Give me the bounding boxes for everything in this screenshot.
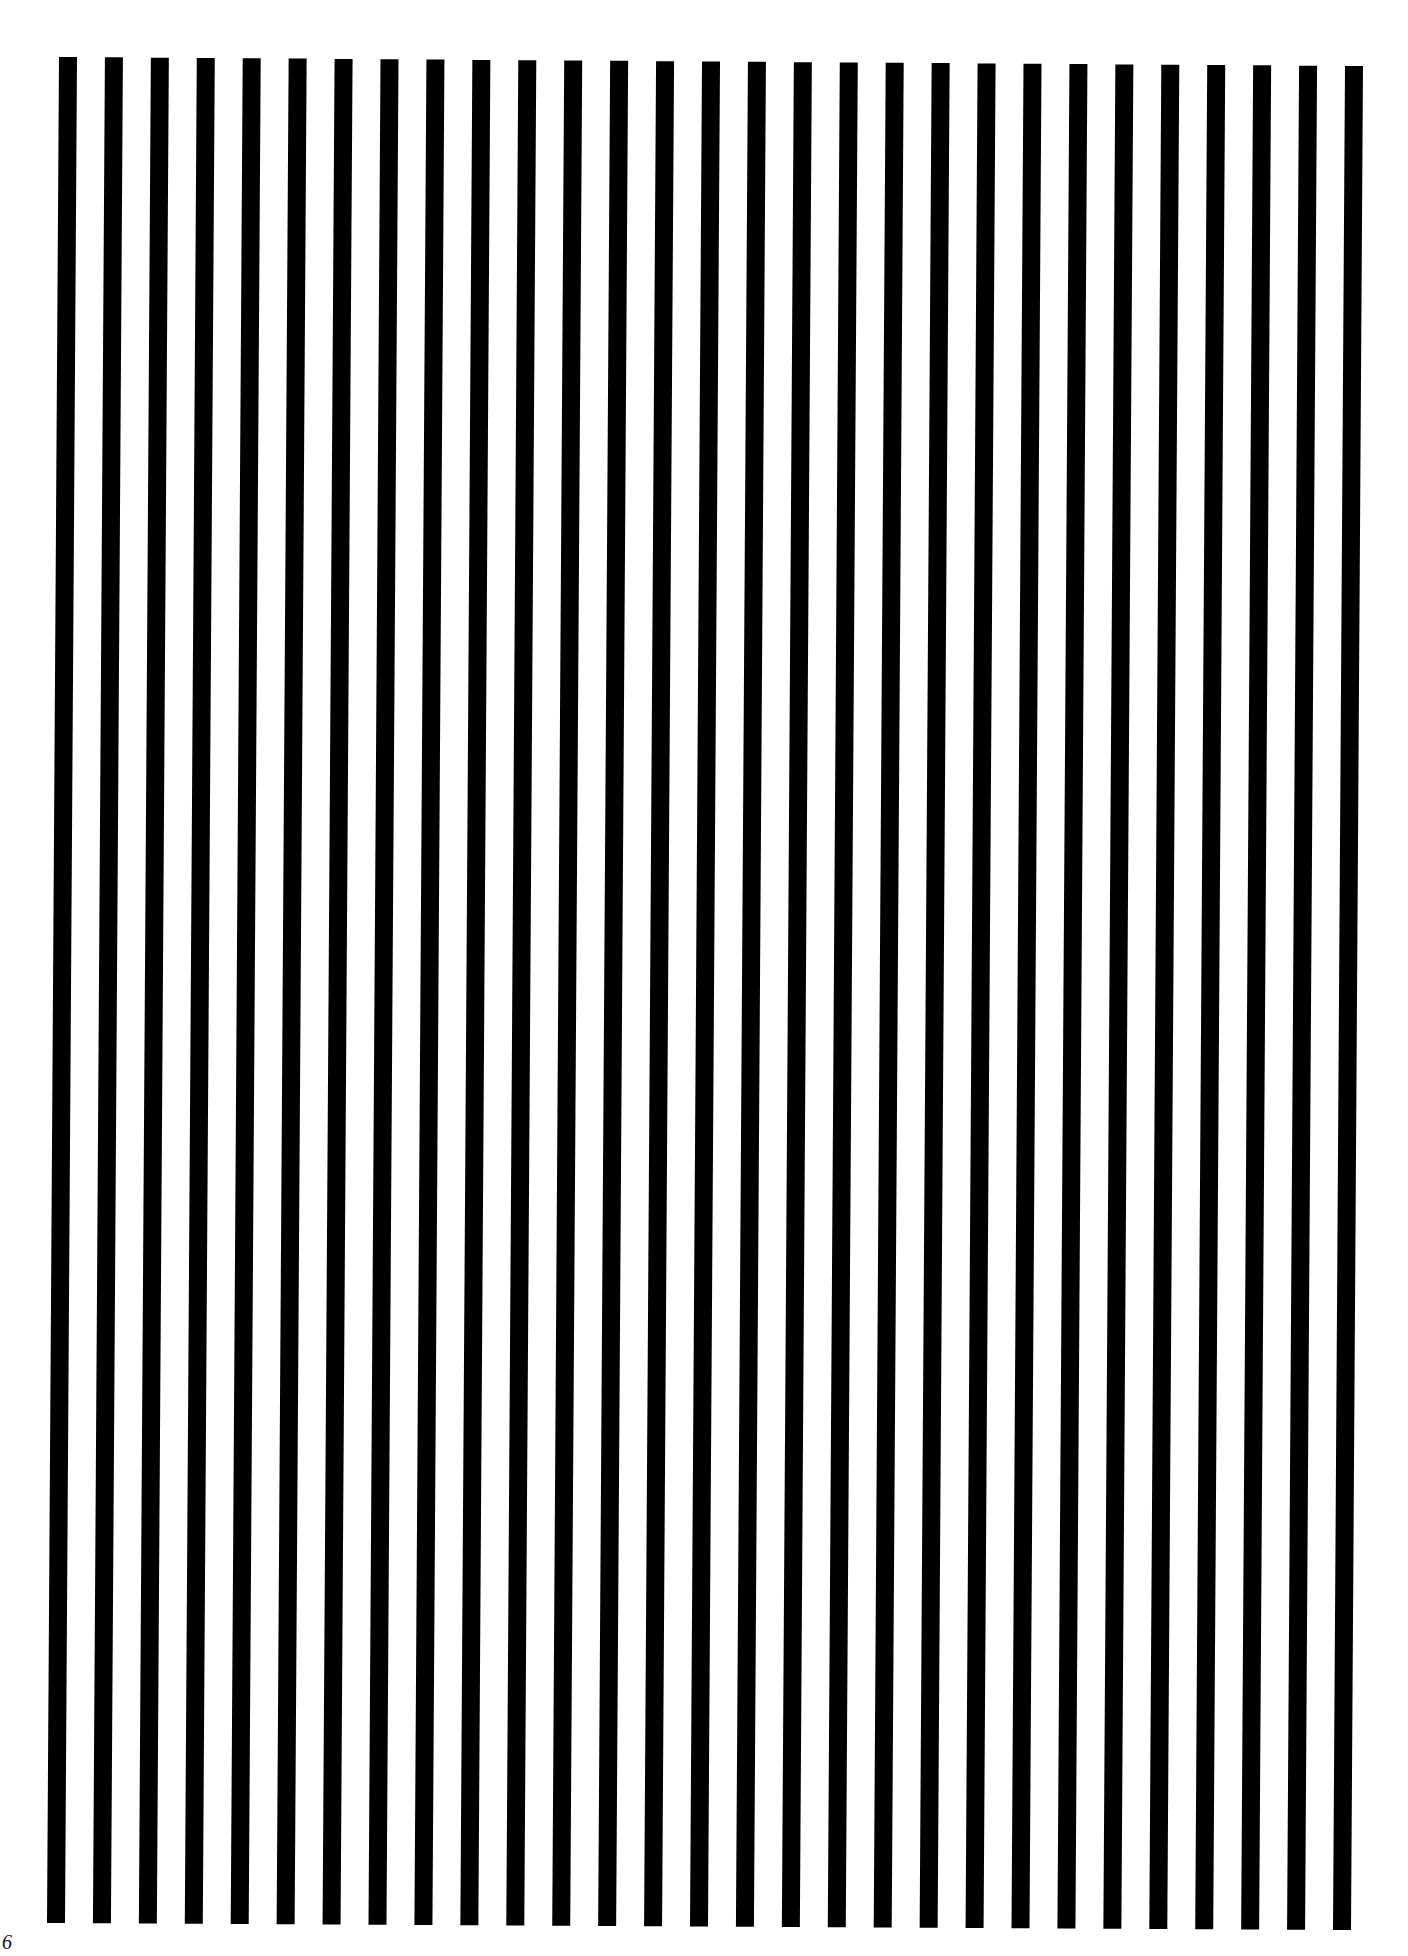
stripe — [231, 58, 261, 1924]
stripe — [185, 58, 215, 1924]
stripe — [1057, 64, 1087, 1928]
stripe — [323, 59, 353, 1925]
stripe — [1333, 66, 1363, 1930]
stripe — [874, 63, 904, 1928]
stripe — [414, 60, 444, 1925]
stripe — [598, 61, 628, 1926]
vertical-stripe-pattern — [0, 0, 1408, 1956]
stripe — [369, 59, 399, 1925]
stripe — [552, 61, 582, 1926]
stripe — [828, 62, 858, 1927]
stripe — [966, 63, 996, 1928]
stripe — [1195, 65, 1225, 1929]
stripe — [690, 62, 720, 1927]
stripe — [782, 62, 812, 1927]
stripe — [644, 61, 674, 1926]
stripe — [47, 57, 77, 1923]
stripe — [1287, 66, 1317, 1930]
stripe — [1012, 64, 1042, 1929]
stripe — [1149, 65, 1179, 1929]
stripe — [506, 60, 536, 1925]
stripe — [1103, 64, 1133, 1928]
stripe — [139, 58, 169, 1924]
stripe — [1241, 65, 1271, 1929]
page-number: 6 — [2, 1931, 12, 1954]
stripe — [93, 57, 123, 1923]
stripe — [277, 59, 307, 1925]
stripe — [736, 62, 766, 1927]
stripe — [460, 60, 490, 1925]
stripe — [920, 63, 950, 1928]
